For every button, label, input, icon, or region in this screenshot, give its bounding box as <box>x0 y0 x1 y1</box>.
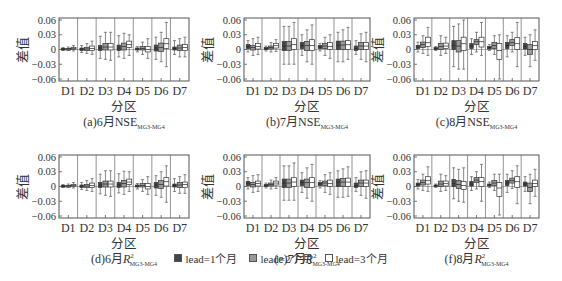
box <box>305 179 310 187</box>
y-tick-label: −0.06 <box>387 211 411 222</box>
panel-caption: (b)7月NSEMG3-MG4 <box>266 115 348 130</box>
x-tick-label: D6 <box>154 221 169 235</box>
x-tick-label: D2 <box>264 221 279 235</box>
y-tick-label: 0 <box>51 181 56 192</box>
x-axis-label: 分区 <box>111 237 137 251</box>
legend-swatch-icon <box>325 254 333 262</box>
y-tick-label: 0.06 <box>223 15 241 26</box>
x-tick-label: D5 <box>487 221 502 235</box>
box <box>452 41 456 50</box>
legend: lead=1个月 lead=2个月 lead=3个月 <box>0 250 562 266</box>
x-tick-label: D1 <box>246 84 261 98</box>
y-tick-label: 0.06 <box>38 15 56 26</box>
box <box>479 37 484 47</box>
y-tick-label: −0.03 <box>217 196 241 207</box>
box <box>479 178 484 187</box>
x-axis-label: 分区 <box>464 100 490 114</box>
x-tick-label: D7 <box>172 84 187 98</box>
legend-swatch-icon <box>249 254 257 262</box>
x-tick-label: D1 <box>416 221 431 235</box>
y-tick-label: −0.06 <box>32 74 56 85</box>
x-tick-label: D5 <box>135 221 150 235</box>
y-tick-label: 0.06 <box>393 152 411 163</box>
x-tick-label: D2 <box>264 84 279 98</box>
x-tick-label: D6 <box>336 84 351 98</box>
y-axis-label: 差值 <box>370 174 385 200</box>
y-tick-label: 0.06 <box>393 15 411 26</box>
y-tick-label: −0.03 <box>387 196 411 207</box>
x-tick-label: D2 <box>80 84 95 98</box>
figure: 0.060.030−0.03−0.06差值D1D2D3D4D5D6D7分区(a)… <box>0 0 562 281</box>
y-tick-label: 0.03 <box>223 29 241 40</box>
x-tick-label: D1 <box>416 84 431 98</box>
y-tick-label: −0.06 <box>32 211 56 222</box>
x-tick-label: D4 <box>300 221 315 235</box>
x-tick-label: D3 <box>451 84 466 98</box>
x-tick-label: D2 <box>433 221 448 235</box>
x-tick-label: D7 <box>523 221 538 235</box>
box <box>305 42 310 51</box>
x-tick-label: D1 <box>246 221 261 235</box>
panel-caption: (c)8月NSEMG3-MG4 <box>436 115 517 130</box>
y-axis-label: 差值 <box>200 37 215 63</box>
y-tick-label: 0.03 <box>223 166 241 177</box>
y-tick-label: 0.03 <box>38 166 56 177</box>
x-tick-label: D2 <box>433 84 448 98</box>
y-tick-label: 0.03 <box>393 29 411 40</box>
y-tick-label: −0.06 <box>217 74 241 85</box>
y-tick-label: 0 <box>406 44 411 55</box>
x-axis-label: 分区 <box>294 237 320 251</box>
box <box>515 177 520 188</box>
legend-item-lead-3: lead=3个月 <box>325 250 388 266</box>
x-tick-label: D7 <box>354 84 369 98</box>
x-axis-label: 分区 <box>111 100 137 114</box>
y-tick-label: −0.03 <box>387 59 411 70</box>
legend-item-lead-2: lead=2个月 <box>249 250 312 266</box>
legend-item-lead-1: lead=1个月 <box>174 250 237 266</box>
x-axis-label: 分区 <box>464 237 490 251</box>
x-tick-label: D5 <box>318 84 333 98</box>
x-tick-label: D3 <box>282 84 297 98</box>
box <box>497 183 502 197</box>
x-axis-label: 分区 <box>294 100 320 114</box>
x-tick-label: D4 <box>117 84 132 98</box>
y-tick-label: −0.03 <box>32 59 56 70</box>
box <box>336 179 340 186</box>
box <box>346 41 351 50</box>
x-tick-label: D6 <box>505 221 520 235</box>
x-tick-label: D5 <box>135 84 150 98</box>
x-tick-label: D4 <box>300 84 315 98</box>
y-tick-label: 0.03 <box>393 166 411 177</box>
x-tick-label: D7 <box>523 84 538 98</box>
box <box>310 40 315 51</box>
y-tick-label: 0 <box>51 44 56 55</box>
x-tick-label: D3 <box>98 221 113 235</box>
x-tick-label: D6 <box>154 84 169 98</box>
y-tick-label: 0 <box>236 44 241 55</box>
y-tick-label: 0 <box>236 181 241 192</box>
box <box>497 44 502 60</box>
x-tick-label: D7 <box>172 221 187 235</box>
box <box>452 180 456 187</box>
y-axis-label: 差值 <box>15 37 30 63</box>
y-tick-label: −0.03 <box>217 59 241 70</box>
box <box>341 179 346 187</box>
y-axis-label: 差值 <box>200 174 215 200</box>
x-tick-label: D3 <box>282 221 297 235</box>
legend-swatch-icon <box>174 254 182 262</box>
y-tick-label: −0.03 <box>32 196 56 207</box>
x-tick-label: D7 <box>354 221 369 235</box>
y-axis-label: 差值 <box>15 174 30 200</box>
y-tick-label: 0.03 <box>38 29 56 40</box>
y-tick-label: 0.06 <box>38 152 56 163</box>
x-tick-label: D6 <box>336 221 351 235</box>
y-axis-label: 差值 <box>370 37 385 63</box>
box <box>425 37 430 46</box>
box <box>474 40 479 45</box>
x-tick-label: D3 <box>98 84 113 98</box>
x-tick-label: D1 <box>61 84 76 98</box>
x-tick-label: D2 <box>80 221 95 235</box>
x-tick-label: D3 <box>451 221 466 235</box>
y-tick-label: 0 <box>406 181 411 192</box>
x-tick-label: D4 <box>469 84 484 98</box>
